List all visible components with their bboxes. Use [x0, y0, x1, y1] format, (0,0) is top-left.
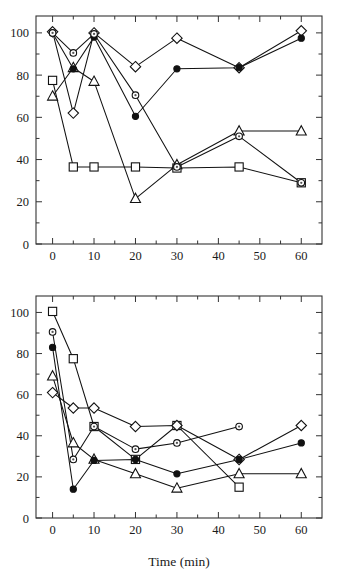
datapoint-open-diamond [172, 33, 182, 43]
x-tick-label: 10 [88, 523, 101, 537]
y-tick-label: 0 [23, 512, 29, 526]
y-tick-label: 0 [23, 238, 29, 252]
x-axis-title: Time (min) [148, 554, 209, 569]
y-tick-label: 20 [17, 195, 30, 209]
plot-area-bottom: 0102030405060020406080100Time (min) [0, 280, 341, 574]
datapoint-open-circle-dot [49, 30, 56, 37]
series-line-open-triangle [53, 68, 302, 199]
x-tick-label: 20 [129, 523, 142, 537]
series-line-filled-circle [53, 33, 302, 116]
datapoint-open-circle-dot [174, 440, 181, 447]
datapoint-open-diamond [296, 26, 306, 36]
figure-container: 0102030405060020406080100 01020304050600… [0, 0, 341, 574]
x-tick-label: 60 [295, 249, 308, 263]
datapoint-open-diamond [68, 108, 78, 118]
datapoint-open-square [235, 483, 243, 491]
datapoint-open-circle-dot [91, 423, 98, 430]
datapoint-open-circle-dot [236, 133, 243, 140]
series-line-open-circle-dot [53, 332, 240, 459]
datapoint-open-triangle [130, 193, 140, 202]
datapoint-filled-circle [174, 66, 180, 72]
datapoint-open-square [69, 163, 77, 171]
datapoint-filled-circle [132, 113, 138, 119]
y-tick-label: 60 [17, 111, 30, 125]
datapoint-open-circle-dot [298, 179, 305, 186]
datapoint-filled-circle [298, 35, 304, 41]
datapoint-filled-circle [236, 456, 242, 462]
datapoint-open-square [235, 163, 243, 171]
datapoint-open-diamond [89, 403, 99, 413]
datapoint-open-square [90, 163, 98, 171]
x-tick-label: 20 [129, 249, 142, 263]
x-tick-label: 50 [254, 523, 267, 537]
datapoint-open-diamond [68, 403, 78, 413]
x-tick-label: 50 [254, 249, 267, 263]
datapoint-filled-circle [132, 456, 138, 462]
y-tick-label: 40 [17, 429, 30, 443]
x-tick-label: 60 [295, 523, 308, 537]
x-tick-label: 10 [88, 249, 101, 263]
chart-panel-top: 0102030405060020406080100 [0, 0, 341, 287]
x-tick-label: 0 [49, 523, 55, 537]
x-tick-label: 40 [212, 523, 225, 537]
datapoint-open-square [48, 307, 56, 315]
datapoint-open-circle-dot [236, 423, 243, 430]
y-tick-label: 80 [17, 69, 30, 83]
datapoint-filled-circle [298, 440, 304, 446]
series-line-filled-circle [53, 347, 302, 489]
datapoint-filled-circle [49, 344, 55, 350]
datapoint-open-circle-dot [132, 446, 139, 453]
datapoint-open-triangle [296, 126, 306, 135]
x-tick-label: 30 [171, 523, 184, 537]
y-tick-label: 40 [17, 153, 30, 167]
datapoint-open-circle-dot [174, 164, 181, 171]
datapoint-open-square [131, 163, 139, 171]
datapoint-open-triangle [89, 76, 99, 85]
series-line-open-square [53, 311, 240, 487]
y-tick-label: 100 [10, 26, 29, 40]
datapoint-open-triangle [234, 468, 244, 477]
datapoint-open-circle-dot [70, 456, 77, 463]
datapoint-filled-circle [236, 65, 242, 71]
x-tick-label: 40 [212, 249, 225, 263]
datapoint-open-circle-dot [70, 50, 77, 57]
datapoint-open-square [48, 76, 56, 84]
x-tick-label: 0 [49, 249, 55, 263]
datapoint-open-diamond [296, 420, 306, 430]
datapoint-open-triangle [296, 468, 306, 477]
x-tick-label: 30 [171, 249, 184, 263]
datapoint-open-square [69, 355, 77, 363]
chart-panel-bottom: 0102030405060020406080100Time (min) [0, 280, 341, 574]
datapoint-open-circle-dot [49, 329, 56, 336]
datapoint-open-circle-dot [91, 31, 98, 38]
datapoint-open-diamond [130, 421, 140, 431]
datapoint-filled-circle [70, 486, 76, 492]
plot-area-top: 0102030405060020406080100 [0, 0, 341, 287]
datapoint-filled-circle [174, 471, 180, 477]
datapoint-filled-circle [91, 457, 97, 463]
y-tick-label: 100 [10, 306, 29, 320]
y-tick-label: 60 [17, 388, 30, 402]
datapoint-open-circle-dot [132, 92, 139, 99]
datapoint-filled-circle [70, 66, 76, 72]
y-tick-label: 20 [17, 470, 30, 484]
y-tick-label: 80 [17, 347, 30, 361]
